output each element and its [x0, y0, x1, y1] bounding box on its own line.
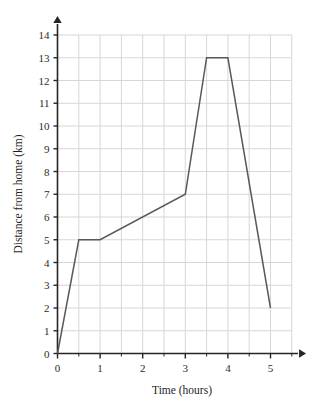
y-tick-label: 0 [44, 348, 50, 360]
y-tick-label: 10 [39, 120, 51, 132]
y-tick-label: 11 [39, 97, 50, 109]
y-tick-label: 4 [44, 257, 50, 269]
y-tick-label: 9 [44, 143, 50, 155]
axis-lines [53, 16, 306, 358]
x-axis-tick-labels: 012345 [55, 362, 274, 374]
y-tick-label: 12 [39, 75, 50, 87]
x-tick-label: 5 [268, 362, 274, 374]
x-tick-label: 0 [55, 362, 61, 374]
y-tick-label: 8 [44, 166, 50, 178]
y-tick-label: 1 [44, 325, 50, 337]
x-tick-label: 1 [97, 362, 103, 374]
x-tick-label: 4 [225, 362, 231, 374]
x-tick-label: 3 [183, 362, 189, 374]
y-tick-label: 7 [44, 188, 50, 200]
y-tick-label: 3 [44, 279, 50, 291]
y-tick-label: 2 [44, 302, 50, 314]
y-tick-label: 5 [44, 234, 50, 246]
gridlines [58, 35, 292, 354]
chart-plot-area: 012345 01234567891011121314 Time (hours)… [0, 0, 329, 406]
x-tick-label: 2 [140, 362, 146, 374]
y-axis-arrow-icon [53, 16, 61, 23]
y-axis-tick-labels: 01234567891011121314 [39, 29, 51, 360]
distance-time-chart: 012345 01234567891011121314 Time (hours)… [0, 0, 329, 406]
y-axis-title: Distance from home (km) [12, 134, 25, 253]
x-axis-arrow-icon [299, 349, 306, 357]
y-tick-label: 14 [39, 29, 51, 41]
y-tick-label: 13 [39, 52, 51, 64]
tick-marks [54, 35, 292, 359]
y-tick-label: 6 [44, 211, 50, 223]
x-axis-title: Time (hours) [152, 384, 212, 397]
